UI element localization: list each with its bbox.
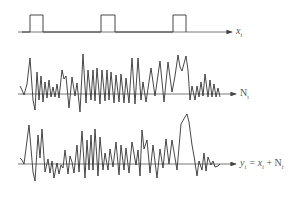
noise-signal-label: Nt	[240, 87, 249, 100]
signal-diagram	[0, 0, 303, 201]
noise-trace	[20, 54, 220, 112]
pulse-train-trace	[22, 15, 186, 32]
sum-signal-label: yt = xt + Nt	[240, 157, 284, 170]
sum-trace	[20, 114, 220, 181]
x-signal-label: xt	[236, 25, 242, 38]
